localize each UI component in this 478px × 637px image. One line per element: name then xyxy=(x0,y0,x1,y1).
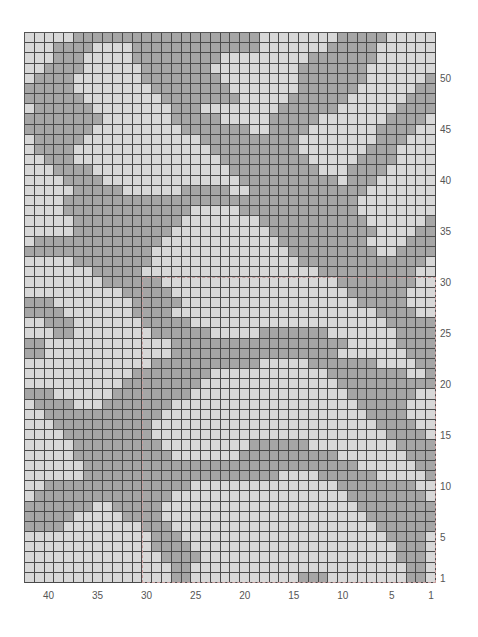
chart-cell xyxy=(35,186,45,196)
chart-cell xyxy=(201,502,211,512)
chart-cell xyxy=(328,53,338,63)
chart-cell xyxy=(348,267,358,277)
chart-cell xyxy=(54,298,64,308)
chart-cell xyxy=(74,502,84,512)
chart-cell xyxy=(230,461,240,471)
chart-cell xyxy=(142,400,152,410)
chart-cell xyxy=(211,135,221,145)
chart-cell xyxy=(182,206,192,216)
chart-cell xyxy=(211,84,221,94)
chart-cell xyxy=(367,267,377,277)
chart-cell xyxy=(93,267,103,277)
chart-cell xyxy=(74,43,84,53)
chart-cell xyxy=(230,542,240,552)
chart-cell xyxy=(133,104,143,114)
chart-cell xyxy=(279,359,289,369)
chart-cell xyxy=(64,33,74,43)
chart-cell xyxy=(162,410,172,420)
chart-cell xyxy=(416,104,426,114)
chart-cell xyxy=(162,512,172,522)
chart-cell xyxy=(328,440,338,450)
chart-cell xyxy=(162,502,172,512)
chart-cell xyxy=(397,186,407,196)
chart-cell xyxy=(84,176,94,186)
chart-cell xyxy=(397,247,407,257)
chart-cell xyxy=(240,64,250,74)
chart-cell xyxy=(25,104,35,114)
chart-cell xyxy=(358,145,368,155)
chart-cell xyxy=(348,257,358,267)
chart-cell xyxy=(270,53,280,63)
chart-cell xyxy=(25,359,35,369)
chart-cell xyxy=(367,379,377,389)
chart-cell xyxy=(309,43,319,53)
chart-cell xyxy=(397,298,407,308)
chart-cell xyxy=(113,563,123,573)
chart-cell xyxy=(133,369,143,379)
chart-cell xyxy=(35,84,45,94)
chart-cell xyxy=(133,196,143,206)
chart-cell xyxy=(123,237,133,247)
chart-cell xyxy=(45,74,55,84)
chart-cell xyxy=(64,114,74,124)
chart-cell xyxy=(416,84,426,94)
chart-cell xyxy=(289,43,299,53)
chart-cell xyxy=(377,400,387,410)
chart-cell xyxy=(221,53,231,63)
chart-cell xyxy=(367,563,377,573)
chart-cell xyxy=(328,542,338,552)
chart-cell xyxy=(377,216,387,226)
chart-cell xyxy=(54,145,64,155)
chart-cell xyxy=(240,308,250,318)
chart-cell xyxy=(172,522,182,532)
chart-cell xyxy=(397,155,407,165)
chart-cell xyxy=(426,145,436,155)
chart-cell xyxy=(64,502,74,512)
chart-cell xyxy=(191,491,201,501)
chart-cell xyxy=(133,288,143,298)
chart-cell xyxy=(387,33,397,43)
chart-cell xyxy=(191,410,201,420)
chart-cell xyxy=(93,33,103,43)
chart-cell xyxy=(123,114,133,124)
chart-cell xyxy=(407,552,417,562)
chart-cell xyxy=(348,400,358,410)
chart-cell xyxy=(191,379,201,389)
chart-cell xyxy=(348,440,358,450)
chart-cell xyxy=(221,74,231,84)
chart-cell xyxy=(93,186,103,196)
chart-cell xyxy=(113,339,123,349)
chart-cell xyxy=(221,481,231,491)
chart-cell xyxy=(319,573,329,583)
chart-cell xyxy=(172,227,182,237)
chart-cell xyxy=(279,247,289,257)
chart-cell xyxy=(377,542,387,552)
chart-cell xyxy=(54,379,64,389)
chart-cell xyxy=(309,420,319,430)
chart-cell xyxy=(54,542,64,552)
chart-cell xyxy=(103,379,113,389)
chart-cell xyxy=(407,104,417,114)
chart-cell xyxy=(25,379,35,389)
chart-cell xyxy=(84,43,94,53)
chart-cell xyxy=(348,155,358,165)
chart-cell xyxy=(250,400,260,410)
chart-cell xyxy=(289,94,299,104)
column-label: 20 xyxy=(239,590,250,601)
chart-cell xyxy=(289,400,299,410)
chart-cell xyxy=(211,563,221,573)
chart-cell xyxy=(240,84,250,94)
chart-cell xyxy=(152,104,162,114)
chart-cell xyxy=(221,104,231,114)
chart-cell xyxy=(133,64,143,74)
chart-cell xyxy=(250,135,260,145)
chart-cell xyxy=(191,461,201,471)
chart-cell xyxy=(250,440,260,450)
chart-cell xyxy=(289,542,299,552)
chart-cell xyxy=(45,400,55,410)
chart-cell xyxy=(407,379,417,389)
chart-cell xyxy=(54,318,64,328)
chart-cell xyxy=(211,145,221,155)
column-label: 35 xyxy=(92,590,103,601)
chart-cell xyxy=(172,277,182,287)
